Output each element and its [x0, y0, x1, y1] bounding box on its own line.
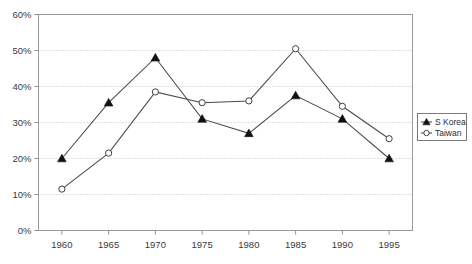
- data-point-marker: [199, 100, 205, 106]
- chart-background: [0, 0, 472, 264]
- x-axis-tick-label: 1960: [51, 239, 72, 250]
- x-axis-tick-label: 1965: [98, 239, 119, 250]
- data-point-marker: [106, 150, 112, 156]
- data-point-marker: [293, 46, 299, 52]
- legend-item-label: Taiwan: [435, 128, 462, 138]
- x-axis-tick-label: 1980: [238, 239, 259, 250]
- data-point-marker: [386, 136, 392, 142]
- chart-canvas: 0%10%20%30%40%50%60% 1960196519701975198…: [0, 0, 472, 264]
- y-axis-tick-label: 20%: [12, 153, 32, 164]
- legend-marker-open-circle-icon: [424, 130, 429, 135]
- data-point-marker: [339, 103, 345, 109]
- data-point-marker: [59, 186, 65, 192]
- y-axis-tick-label: 50%: [12, 45, 32, 56]
- legend-item-label: S Korea: [435, 117, 466, 127]
- x-axis-tick-label: 1970: [145, 239, 166, 250]
- x-axis-tick-label: 1985: [285, 239, 306, 250]
- y-axis-tick-label: 30%: [12, 117, 32, 128]
- x-axis-tick-label: 1995: [379, 239, 400, 250]
- data-point-marker: [246, 98, 252, 104]
- line-chart: 0%10%20%30%40%50%60% 1960196519701975198…: [0, 0, 472, 264]
- data-point-marker: [152, 89, 158, 95]
- x-axis-tick-label: 1990: [332, 239, 353, 250]
- y-axis-tick-label: 0%: [18, 225, 32, 236]
- y-axis-tick-label: 60%: [12, 9, 32, 20]
- x-axis-tick-label: 1975: [192, 239, 213, 250]
- y-axis-tick-label: 40%: [12, 81, 32, 92]
- chart-legend[interactable]: S KoreaTaiwan: [418, 114, 467, 141]
- y-axis-tick-label: 10%: [12, 189, 32, 200]
